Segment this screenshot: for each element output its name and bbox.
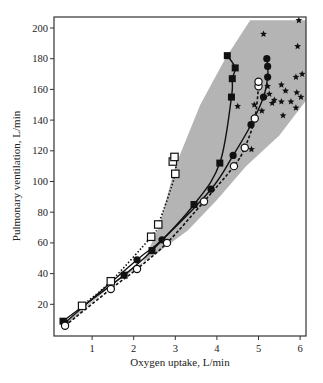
chart: 123456 20406080100120140160180200 Oxygen… — [0, 0, 323, 383]
filled-square-marker — [191, 201, 198, 208]
open-circle-marker — [133, 265, 140, 272]
x-tick-label: 3 — [173, 343, 178, 354]
filled-square-marker — [228, 94, 235, 101]
y-axis-label: Pulmonary ventilation, L/min — [10, 110, 22, 241]
filled-circle-marker — [264, 74, 271, 81]
y-tick-label: 140 — [32, 115, 48, 126]
open-circle-marker — [251, 115, 258, 122]
y-tick-label: 100 — [32, 176, 48, 187]
filled-square-marker — [229, 75, 236, 82]
open-circle-marker — [107, 285, 114, 292]
filled-circle-marker — [263, 55, 270, 62]
filled-circle-marker — [264, 63, 271, 70]
y-tick-label: 120 — [32, 145, 48, 156]
open-circle-marker — [61, 322, 68, 329]
filled-square-marker — [121, 272, 128, 279]
open-circle-marker — [241, 144, 248, 151]
filled-circle-marker — [207, 186, 214, 193]
open-circle-marker — [200, 198, 207, 205]
filled-square-marker — [224, 52, 231, 59]
x-tick-label: 4 — [214, 343, 220, 354]
filled-circle-marker — [260, 93, 267, 100]
x-axis-label: Oxygen uptake, L/min — [130, 356, 230, 368]
filled-square-marker — [149, 247, 156, 254]
y-tick-label: 180 — [32, 53, 48, 64]
open-square-marker — [155, 221, 162, 228]
y-tick-label: 20 — [38, 299, 49, 310]
filled-circle-marker — [133, 256, 140, 263]
open-circle-marker — [230, 163, 237, 170]
y-tick-label: 200 — [32, 23, 48, 34]
x-tick-label: 6 — [297, 343, 302, 354]
filled-circle-marker — [230, 152, 237, 159]
open-square-marker — [171, 153, 178, 160]
y-axis-ticks: 20406080100120140160180200 — [32, 23, 54, 310]
open-circle-marker — [163, 239, 170, 246]
x-tick-label: 2 — [131, 343, 136, 354]
y-tick-label: 60 — [38, 237, 49, 248]
filled-square-marker — [232, 64, 239, 71]
open-circle-marker — [255, 78, 262, 85]
y-tick-label: 80 — [38, 207, 49, 218]
y-tick-label: 40 — [38, 268, 49, 279]
open-square-marker — [172, 170, 179, 177]
open-square-marker — [147, 233, 154, 240]
x-tick-label: 1 — [89, 343, 94, 354]
filled-square-marker — [216, 160, 223, 167]
x-tick-label: 5 — [256, 343, 261, 354]
x-axis-ticks: 123456 — [89, 336, 302, 354]
open-square-marker — [78, 302, 85, 309]
y-tick-label: 160 — [32, 84, 48, 95]
open-square-marker — [107, 278, 114, 285]
